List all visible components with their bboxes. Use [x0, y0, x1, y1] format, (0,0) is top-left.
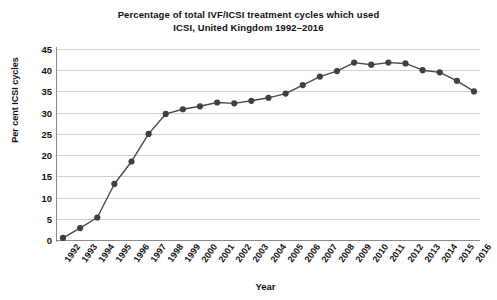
data-point-1999: 1999: 30.8	[180, 106, 186, 112]
x-tick-label-1993: 1993	[80, 242, 100, 264]
x-tick-label-2011: 2011	[388, 242, 407, 264]
data-point-2005: 2005: 34.5	[283, 90, 289, 96]
series-polyline	[63, 63, 474, 238]
y-axis-tick-labels: 051015202530354045	[26, 49, 52, 240]
series-line-icsi: 1992: 0.51993: 2.81994: 5.31995: 13.2199…	[57, 49, 480, 240]
data-point-2013: 2013: 40	[420, 67, 426, 73]
data-point-1995: 1995: 13.2	[111, 181, 117, 187]
data-point-2000: 2000: 31.5	[197, 103, 203, 109]
x-tick-label-2002: 2002	[234, 242, 254, 264]
x-tick-label-2004: 2004	[268, 242, 288, 264]
x-tick-label-2005: 2005	[285, 242, 305, 264]
chart-title: Percentage of total IVF/ICSI treatment c…	[0, 8, 497, 34]
x-tick-label-1998: 1998	[165, 242, 185, 264]
x-tick-label-2001: 2001	[217, 242, 237, 264]
data-point-2014: 2014: 39.5	[437, 69, 443, 75]
y-tick-label-40: 40	[30, 65, 52, 76]
y-tick-label-0: 0	[30, 235, 52, 246]
x-tick-label-1995: 1995	[114, 242, 134, 264]
x-tick-label-2003: 2003	[251, 242, 271, 264]
chart-figure: Percentage of total IVF/ICSI treatment c…	[0, 0, 497, 300]
y-tick-label-35: 35	[30, 86, 52, 97]
x-tick-label-2000: 2000	[200, 242, 220, 264]
y-tick-label-45: 45	[30, 44, 52, 55]
x-tick-label-2010: 2010	[371, 242, 391, 264]
x-tick-label-2015: 2015	[456, 242, 476, 264]
x-tick-label-2008: 2008	[337, 242, 357, 264]
x-tick-label-1999: 1999	[182, 242, 202, 264]
x-tick-label-2013: 2013	[422, 242, 442, 264]
x-tick-label-1997: 1997	[148, 242, 168, 264]
data-point-2010: 2010: 41.3	[368, 62, 374, 68]
x-tick-label-1996: 1996	[131, 242, 151, 264]
data-point-1997: 1997: 25	[146, 131, 152, 137]
y-tick-label-15: 15	[30, 171, 52, 182]
chart-title-line-1: Percentage of total IVF/ICSI treatment c…	[0, 8, 497, 21]
x-tick-label-1992: 1992	[63, 242, 83, 264]
x-tick-label-2006: 2006	[302, 242, 322, 264]
y-tick-label-5: 5	[30, 213, 52, 224]
data-point-2003: 2003: 32.8	[248, 98, 254, 104]
data-point-2004: 2004: 33.5	[265, 95, 271, 101]
data-point-2007: 2007: 38.5	[317, 73, 323, 79]
data-point-2001: 2001: 32.4	[214, 99, 220, 105]
data-point-2011: 2011: 41.8	[385, 59, 391, 65]
data-point-2012: 2012: 41.6	[402, 60, 408, 66]
y-axis-title: Per cent ICSI cycles	[10, 40, 20, 160]
x-tick-label-1994: 1994	[97, 242, 117, 264]
y-tick-label-20: 20	[30, 150, 52, 161]
y-tick-label-10: 10	[30, 192, 52, 203]
x-tick-label-2012: 2012	[405, 242, 425, 264]
data-point-1998: 1998: 29.7	[163, 111, 169, 117]
data-point-2006: 2006: 36.5	[300, 82, 306, 88]
x-tick-label-2009: 2009	[354, 242, 374, 264]
data-point-1992: 1992: 0.5	[60, 235, 66, 241]
x-axis-title: Year	[0, 281, 497, 292]
plot-area: 1992: 0.51993: 2.81994: 5.31995: 13.2199…	[57, 49, 480, 240]
x-tick-label-2016: 2016	[474, 242, 494, 264]
y-tick-label-30: 30	[30, 107, 52, 118]
data-point-2008: 2008: 39.8	[334, 68, 340, 74]
data-point-2002: 2002: 32.2	[231, 100, 237, 106]
y-tick-label-25: 25	[30, 128, 52, 139]
data-point-2009: 2009: 41.8	[351, 59, 357, 65]
x-axis-tick-labels: 1992199319941995199619971998199920002001…	[57, 242, 480, 282]
data-point-2015: 2015: 37.5	[454, 78, 460, 84]
data-point-1994: 1994: 5.3	[94, 214, 100, 220]
data-point-2016: 2016: 35	[471, 88, 477, 94]
data-point-1996: 1996: 18.5	[128, 158, 134, 164]
chart-title-line-2: ICSI, United Kingdom 1992–2016	[0, 21, 497, 34]
data-point-1993: 1993: 2.8	[77, 225, 83, 231]
x-tick-label-2014: 2014	[439, 242, 459, 264]
x-tick-label-2007: 2007	[319, 242, 339, 264]
